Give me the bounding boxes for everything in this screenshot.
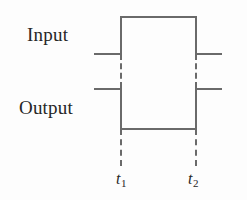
dashed-connector-t1-middle xyxy=(120,54,122,88)
output-low-level-between-t1-t2 xyxy=(120,128,197,130)
dashed-connector-t2-middle xyxy=(195,54,197,88)
dashed-dropline-t1 xyxy=(120,129,122,166)
output-rising-edge-at-t2 xyxy=(195,88,197,129)
input-falling-edge-at-t2 xyxy=(195,16,197,54)
input-waveform-label: Input xyxy=(27,25,68,44)
output-falling-edge-at-t1 xyxy=(120,88,122,129)
timing-diagram: Input Output t1 t2 xyxy=(0,0,247,200)
input-high-level-between-t1-t2 xyxy=(120,16,197,18)
output-high-level-after-t2 xyxy=(195,88,222,90)
time-marker-label-t2: t2 xyxy=(188,171,198,189)
output-high-level-before-t1 xyxy=(94,88,121,90)
time-marker-label-t1: t1 xyxy=(116,171,126,189)
input-rising-edge-at-t1 xyxy=(120,16,122,54)
input-low-level-before-t1 xyxy=(94,53,121,55)
time-subscript-2: 2 xyxy=(192,177,198,189)
time-subscript-1: 1 xyxy=(120,177,126,189)
dashed-dropline-t2 xyxy=(195,129,197,166)
output-waveform-label: Output xyxy=(19,98,73,117)
input-low-level-after-t2 xyxy=(195,53,222,55)
